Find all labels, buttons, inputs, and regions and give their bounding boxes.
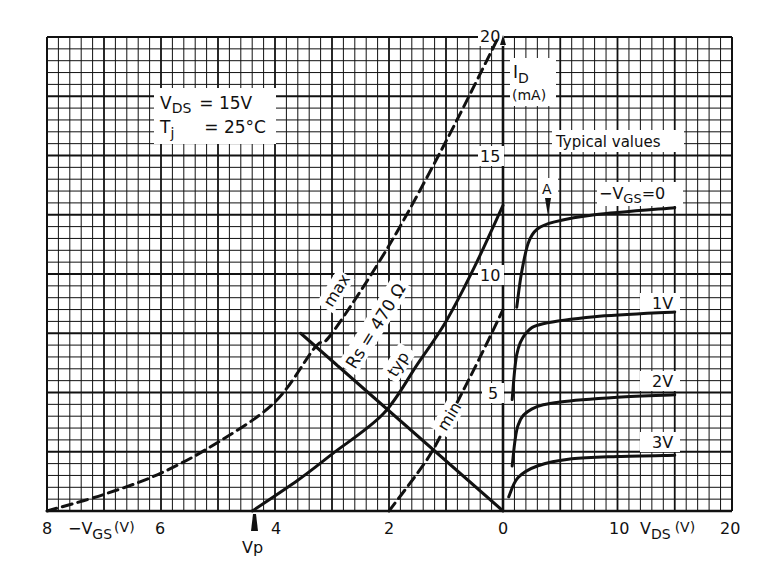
point-a-label: A <box>542 181 552 197</box>
output-curve-vgs-3 <box>509 455 675 496</box>
jfet-characteristics-chart: max Rs = 470 Ω typ min VDS= 15V Tj= 25°C… <box>0 0 778 582</box>
vgs1-curve-label: 1V <box>652 294 673 313</box>
x-tick-vds-10: 10 <box>609 519 629 538</box>
output-curve-vgs-0 <box>517 208 675 308</box>
x-tick-0: 0 <box>498 519 508 538</box>
x-tick-vds-20: 20 <box>720 519 740 538</box>
y-tick-10: 10 <box>480 266 500 285</box>
label-backgrounds <box>154 26 684 452</box>
vgs-axis-title: −VGS(V) <box>68 519 135 542</box>
x-tick-vgs-4: 4 <box>271 519 281 538</box>
y-tick-20: 20 <box>480 27 500 46</box>
vgs3-curve-label: 3V <box>652 433 673 452</box>
grid <box>47 37 732 511</box>
x-tick-vgs-8: 8 <box>42 519 52 538</box>
id-axis-unit: (mA) <box>512 87 546 103</box>
vds-axis-title: VDS(V) <box>640 519 695 542</box>
vgs2-curve-label: 2V <box>652 372 673 391</box>
y-tick-5: 5 <box>488 384 498 403</box>
y-tick-15: 15 <box>480 147 500 166</box>
x-tick-vgs-2: 2 <box>384 519 394 538</box>
vp-arrow-icon <box>251 514 258 531</box>
vp-label: Vp <box>242 538 263 557</box>
typical-values-note: Typical values <box>555 133 661 151</box>
x-tick-vgs-6: 6 <box>155 519 165 538</box>
point-a-arrow-icon <box>545 198 551 216</box>
